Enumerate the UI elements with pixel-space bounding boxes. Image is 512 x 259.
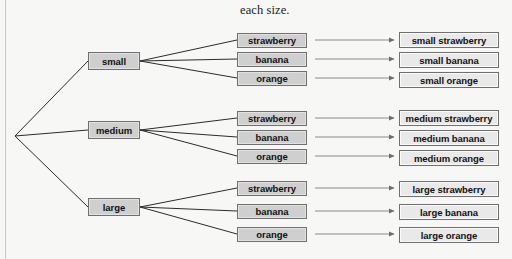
fruit-node-2[interactable]: orange bbox=[237, 71, 307, 86]
result-node-label: large banana bbox=[420, 207, 478, 218]
size-branch-line bbox=[140, 207, 237, 234]
root-branch-line bbox=[15, 136, 88, 207]
fruit-node-label: strawberry bbox=[248, 113, 296, 124]
fruit-node-label: strawberry bbox=[248, 35, 296, 46]
result-node-2[interactable]: small orange bbox=[399, 72, 499, 88]
root-branch-line bbox=[15, 61, 88, 136]
root-branch-line bbox=[15, 130, 88, 136]
fruit-node-label: orange bbox=[256, 229, 287, 240]
result-node-3[interactable]: medium strawberry bbox=[399, 110, 499, 126]
fruit-node-6[interactable]: strawberry bbox=[237, 181, 307, 196]
size-branch-line bbox=[140, 40, 237, 61]
result-node-label: large strawberry bbox=[412, 184, 485, 195]
fruit-node-4[interactable]: banana bbox=[237, 130, 307, 145]
result-node-label: small strawberry bbox=[412, 35, 487, 46]
result-node-7[interactable]: large banana bbox=[399, 204, 499, 220]
fruit-node-label: orange bbox=[256, 151, 287, 162]
fruit-node-8[interactable]: orange bbox=[237, 227, 307, 242]
size-branch-line bbox=[140, 188, 237, 207]
result-node-label: medium strawberry bbox=[406, 113, 493, 124]
fruit-node-3[interactable]: strawberry bbox=[237, 111, 307, 126]
size-edge-group bbox=[140, 40, 237, 234]
result-node-label: medium banana bbox=[413, 133, 485, 144]
result-node-label: large orange bbox=[421, 230, 477, 241]
size-node-0[interactable]: small bbox=[88, 52, 140, 70]
size-branch-line bbox=[140, 61, 237, 78]
fruit-node-label: strawberry bbox=[248, 183, 296, 194]
fruit-node-0[interactable]: strawberry bbox=[237, 33, 307, 48]
fruit-node-7[interactable]: banana bbox=[237, 204, 307, 219]
fruit-node-label: banana bbox=[256, 132, 289, 143]
result-node-1[interactable]: small banana bbox=[399, 52, 499, 68]
result-node-label: medium orange bbox=[414, 153, 484, 164]
size-node-label: medium bbox=[96, 125, 132, 136]
root-edge-group bbox=[15, 61, 88, 207]
result-node-8[interactable]: large orange bbox=[399, 227, 499, 243]
fruit-node-label: orange bbox=[256, 73, 287, 84]
size-node-label: large bbox=[103, 202, 125, 213]
fruit-node-5[interactable]: orange bbox=[237, 149, 307, 164]
result-arrow-group bbox=[315, 40, 394, 234]
fruit-node-label: banana bbox=[256, 54, 289, 65]
result-node-0[interactable]: small strawberry bbox=[399, 32, 499, 48]
size-branch-line bbox=[140, 207, 237, 211]
diagram-canvas: each size. smallmediumlarge strawberryba… bbox=[0, 0, 512, 259]
fruit-node-label: banana bbox=[256, 206, 289, 217]
result-node-6[interactable]: large strawberry bbox=[399, 181, 499, 197]
result-node-label: small banana bbox=[419, 55, 479, 66]
result-node-5[interactable]: medium orange bbox=[399, 150, 499, 166]
result-node-4[interactable]: medium banana bbox=[399, 130, 499, 146]
fruit-node-1[interactable]: banana bbox=[237, 52, 307, 67]
size-node-2[interactable]: large bbox=[88, 198, 140, 216]
size-node-label: small bbox=[102, 56, 126, 67]
size-node-1[interactable]: medium bbox=[88, 121, 140, 139]
size-branch-line bbox=[140, 59, 237, 61]
size-branch-line bbox=[140, 118, 237, 130]
result-node-label: small orange bbox=[420, 75, 478, 86]
